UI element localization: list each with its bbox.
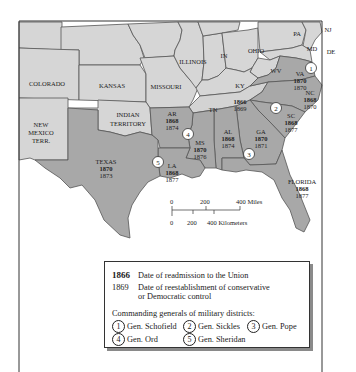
label-colorado: COLORADO: [29, 80, 65, 87]
label-tn-control: 1869: [234, 105, 247, 112]
svg-text:3: 3: [247, 151, 251, 159]
legend-general-3: 3Gen. Pope: [247, 320, 297, 333]
label-ms-control: 1876: [194, 153, 208, 160]
label-indiana: IN: [221, 52, 228, 59]
legend-control-year: 1869: [112, 283, 138, 293]
general-3-name: Gen. Pope: [262, 322, 297, 332]
label-nj: NJ: [324, 26, 332, 33]
legend-generals-heading: Commanding generals of military district…: [112, 309, 255, 319]
label-al-control: 1874: [222, 142, 236, 149]
label-nc-control: 1870: [304, 103, 317, 110]
label-de: DE: [327, 48, 336, 55]
label-sc-readmission: 1868: [285, 119, 299, 126]
label-ar: AR: [167, 110, 177, 117]
legend-general-1: 1Gen. Schofield: [112, 320, 177, 333]
legend-readmission: 1866Date of readmission to the Union: [112, 270, 248, 281]
district-marker-2: 2: [271, 103, 282, 114]
district-5-icon: 5: [183, 333, 196, 346]
district-marker-5: 5: [153, 157, 164, 168]
scale-km-0: 0: [170, 219, 173, 226]
label-ms: MS: [195, 139, 205, 146]
label-florida-readmission: 1868: [296, 185, 310, 192]
label-florida-name: FLORIDA: [288, 178, 316, 185]
label-md: MD: [307, 45, 318, 52]
label-ar-readmission: 1868: [166, 117, 180, 124]
state-upper-left: [19, 22, 62, 50]
legend-control-label-1: Date of reestablishment of conservative: [138, 283, 270, 292]
scale-bar: [172, 206, 240, 216]
label-texas-control: 1873: [100, 172, 113, 179]
label-al: AL: [224, 128, 233, 135]
label-texas: TEXAS: [96, 158, 117, 165]
label-la: LA: [168, 162, 177, 169]
legend-general-5: 5Gen. Sheridan: [183, 333, 245, 346]
label-ga: GA: [256, 128, 266, 135]
legend-general-2: 2Gen. Sickles: [183, 320, 240, 333]
label-indian-territory-1: INDIAN: [116, 111, 139, 118]
scale-miles-200: 200: [200, 198, 210, 205]
district-4-icon: 4: [112, 333, 125, 346]
label-kansas: KANSAS: [99, 82, 125, 89]
label-ms-readmission: 1870: [194, 146, 207, 153]
label-sc-control: 1877: [285, 126, 299, 133]
label-missouri: MISSOURI: [150, 83, 181, 90]
general-5-name: Gen. Sheridan: [198, 335, 245, 345]
label-illinois: ILLINOIS: [179, 58, 207, 65]
district-marker-3: 3: [244, 149, 255, 160]
label-florida-control: 1877: [296, 192, 310, 199]
state-colorado: [19, 48, 79, 100]
district-3-icon: 3: [247, 320, 260, 333]
svg-text:4: 4: [186, 131, 190, 139]
label-ohio: OHIO: [248, 47, 265, 54]
label-va: VA: [296, 70, 305, 77]
label-ga-control: 1871: [255, 142, 268, 149]
legend-readmission-label: Date of readmission to the Union: [138, 271, 248, 280]
label-nm-3: TERR.: [32, 137, 51, 144]
general-2-name: Gen. Sickles: [198, 322, 240, 332]
legend-control-label-2: or Democratic control: [138, 292, 211, 302]
label-sc: SC: [287, 112, 295, 119]
label-nm-2: MEXICO: [28, 129, 54, 136]
legend-readmission-year: 1866: [112, 270, 138, 280]
label-al-readmission: 1868: [222, 135, 236, 142]
label-nc-readmission: 1868: [304, 96, 318, 103]
label-indian-territory-2: TERRITORY: [110, 120, 146, 127]
svg-text:5: 5: [156, 159, 160, 167]
scale-miles-0: 0: [170, 198, 173, 205]
label-tn: TN: [209, 106, 218, 113]
legend-general-4: 4Gen. Ord: [112, 333, 158, 346]
map-legend: 1866Date of readmission to the Union 186…: [104, 261, 310, 348]
general-1-name: Gen. Schofield: [127, 322, 177, 332]
label-ga-readmission: 1870: [255, 135, 268, 142]
svg-text:2: 2: [274, 105, 278, 113]
district-2-icon: 2: [183, 320, 196, 333]
label-la-control: 1877: [166, 176, 180, 183]
label-ar-control: 1874: [166, 124, 180, 131]
district-marker-1: 1: [306, 63, 317, 74]
label-la-readmission: 1868: [166, 169, 180, 176]
district-marker-4: 4: [183, 129, 194, 140]
label-nm-1: NEW: [34, 121, 50, 128]
district-1-icon: 1: [112, 320, 125, 333]
svg-text:1: 1: [309, 65, 313, 73]
label-pa: PA: [293, 30, 301, 37]
scale-km-200: 200: [187, 219, 197, 226]
label-tn-readmission: 1866: [234, 98, 248, 105]
label-texas-readmission: 1870: [100, 165, 113, 172]
label-ky: KY: [235, 82, 245, 89]
scale-km-400: 400 Kilometers: [207, 219, 248, 226]
scale-miles-400: 400 Miles: [236, 198, 263, 205]
label-nc: NC: [305, 89, 314, 96]
general-4-name: Gen. Ord: [127, 335, 158, 345]
label-va-readmission: 1870: [294, 77, 307, 84]
label-wv: WV: [271, 67, 282, 74]
